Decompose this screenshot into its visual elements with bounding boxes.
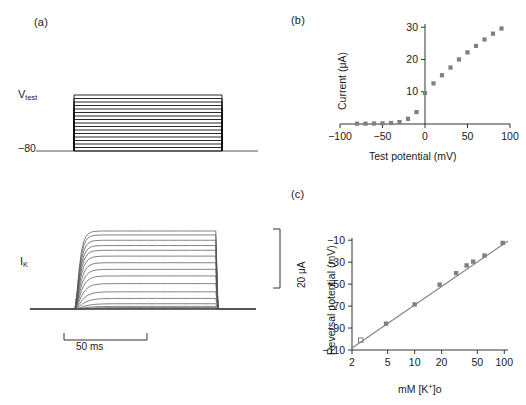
iv-y-axis-label: Current (μA) [336, 52, 348, 110]
iv-point [355, 122, 359, 126]
iv-point [414, 110, 418, 114]
iv-point [423, 91, 427, 95]
reversal-point [482, 253, 486, 257]
reversal-point [501, 241, 505, 245]
panel-c-label: (c) [291, 188, 304, 200]
current-scale-label: 20 μA [296, 262, 307, 288]
iv-point [389, 121, 393, 125]
iv-curve-svg: −100−50050100102030 [330, 12, 520, 137]
svg-text:100: 100 [496, 356, 514, 368]
iv-point [380, 121, 384, 125]
svg-text:20: 20 [436, 356, 448, 368]
current-trace-family [30, 231, 256, 309]
iv-point [465, 50, 469, 54]
svg-text:−100: −100 [328, 130, 352, 142]
iv-point [457, 57, 461, 61]
svg-text:5: 5 [385, 356, 391, 368]
voltage-protocol-chart [18, 84, 266, 160]
reversal-potential-svg: 25102050100−10−30−50−70−90−110 [330, 230, 520, 370]
svg-text:0: 0 [422, 130, 428, 142]
panel-a-label: (a) [34, 16, 48, 28]
current-scale-bar-svg [272, 228, 282, 290]
iv-point [431, 81, 435, 85]
svg-text:100: 100 [501, 130, 519, 142]
reversal-point [464, 263, 468, 267]
reversal-point [437, 282, 441, 286]
iv-point [406, 117, 410, 121]
svg-text:50: 50 [462, 130, 474, 142]
current-scale-bar [272, 228, 282, 290]
reversal-point [471, 259, 475, 263]
svg-text:10: 10 [406, 85, 418, 97]
iv-point [363, 122, 367, 126]
potassium-current-chart [18, 218, 268, 328]
iv-point [499, 26, 503, 30]
iv-point [397, 120, 401, 124]
svg-text:20: 20 [406, 53, 418, 65]
reversal-point [454, 271, 458, 275]
svg-text:10: 10 [409, 356, 421, 368]
iv-point [440, 73, 444, 77]
iv-data-points [355, 26, 504, 125]
reversal-y-axis-label: Reversal potential (mV) [325, 245, 337, 355]
svg-text:−10: −10 [327, 234, 345, 246]
svg-text:30: 30 [406, 21, 418, 33]
iv-curve-chart: −100−50050100102030 [330, 12, 520, 137]
iv-x-axis-label: Test potential (mV) [369, 150, 457, 162]
iv-point [372, 121, 376, 125]
current-traces-svg [18, 218, 268, 328]
reversal-point [384, 321, 388, 325]
reversal-data-points [358, 241, 504, 343]
reversal-potential-chart: 25102050100−10−30−50−70−90−110 [330, 230, 520, 370]
svg-text:50: 50 [471, 356, 483, 368]
iv-point [491, 32, 495, 36]
vtest-label: Vtest [18, 88, 37, 102]
iv-point [474, 44, 478, 48]
svg-text:−50: −50 [374, 130, 392, 142]
reversal-x-axis-label: mM [K+]o [398, 382, 442, 395]
svg-text:2: 2 [349, 356, 355, 368]
time-scale-label: 50 ms [76, 341, 103, 352]
iv-point [448, 65, 452, 69]
reversal-point [412, 302, 416, 306]
voltage-step-family [74, 95, 222, 151]
iv-point [482, 37, 486, 41]
panel-b-label: (b) [291, 14, 305, 26]
voltage-protocol-svg [18, 84, 266, 160]
holding-potential-label: −80 [18, 142, 36, 154]
ik-label: IK [20, 255, 28, 269]
